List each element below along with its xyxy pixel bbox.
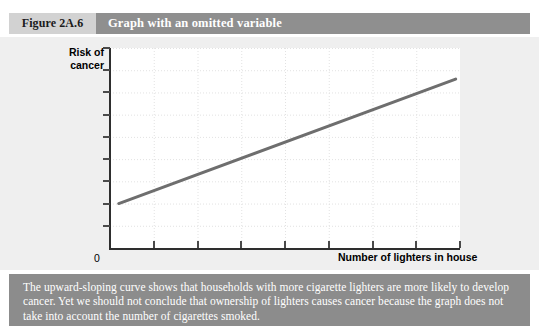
y-tick — [103, 158, 110, 160]
data-curve — [110, 48, 460, 248]
y-tick — [103, 47, 110, 49]
x-tick — [240, 241, 242, 248]
y-axis-line — [109, 48, 111, 249]
y-tick — [103, 91, 110, 93]
y-tick — [103, 136, 110, 138]
figure-container: Figure 2A.6 Graph with an omitted variab… — [0, 0, 539, 331]
y-tick — [103, 69, 110, 71]
figure-header: Figure 2A.6 Graph with an omitted variab… — [9, 13, 530, 34]
x-tick — [284, 241, 286, 248]
x-tick — [197, 241, 199, 248]
figure-caption-text: The upward-sloping curve shows that hous… — [23, 280, 516, 323]
figure-number-box: Figure 2A.6 — [9, 13, 96, 34]
figure-number-label: Figure 2A.6 — [22, 16, 84, 31]
figure-caption-panel: The upward-sloping curve shows that hous… — [9, 274, 530, 326]
y-tick — [103, 203, 110, 205]
figure-title-label: Graph with an omitted variable — [108, 16, 282, 31]
x-tick — [459, 241, 461, 248]
x-tick — [415, 241, 417, 248]
origin-label: 0 — [94, 252, 100, 264]
y-tick — [103, 225, 110, 227]
y-axis-label: Risk of cancer — [56, 46, 104, 72]
figure-title-box: Graph with an omitted variable — [96, 13, 530, 34]
x-tick — [153, 241, 155, 248]
x-tick — [328, 241, 330, 248]
y-tick — [103, 180, 110, 182]
chart-panel: Risk of cancer 0 Number of lighters in h… — [0, 37, 539, 270]
x-tick — [372, 241, 374, 248]
x-axis-line — [109, 248, 460, 250]
y-tick — [103, 114, 110, 116]
plot-frame — [110, 48, 460, 248]
x-axis-label: Number of lighters in house — [338, 251, 477, 263]
